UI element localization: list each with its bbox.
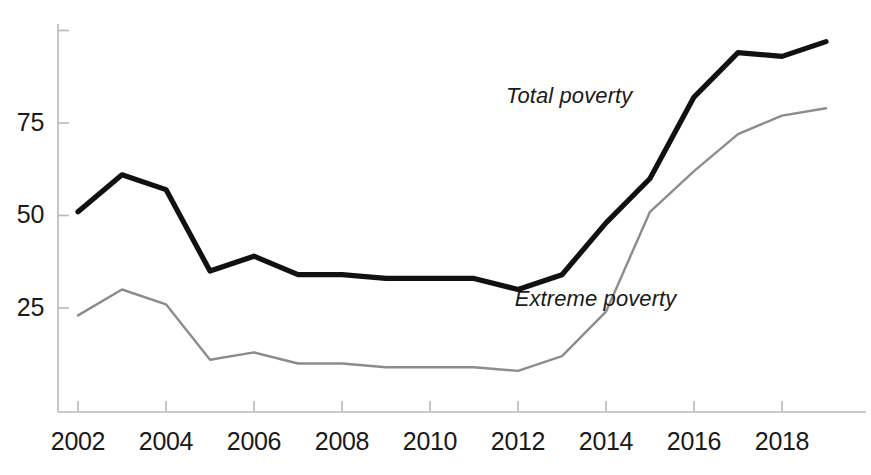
- line-chart-plot: 255075 200220042006200820102012201420162…: [0, 0, 871, 475]
- x-axis-tick-label: 2016: [667, 427, 721, 455]
- series-annotation-group: Total povertyExtreme poverty: [506, 83, 678, 312]
- x-axis-tick-label: 2012: [491, 427, 545, 455]
- x-axis-tick-label: 2010: [403, 427, 457, 455]
- chart-figure: 255075 200220042006200820102012201420162…: [0, 0, 871, 475]
- series-label-extreme-poverty: Extreme poverty: [515, 286, 679, 311]
- x-axis-tick-label: 2006: [227, 427, 281, 455]
- x-axis-tick-group: 200220042006200820102012201420162018: [51, 401, 809, 455]
- x-axis-tick-label: 2004: [139, 427, 194, 455]
- y-axis-tick-label: 75: [17, 108, 44, 136]
- x-axis-tick-label: 2018: [755, 427, 809, 455]
- x-axis-tick-label: 2008: [315, 427, 369, 455]
- series-group: [78, 42, 826, 371]
- y-axis-tick-group: 255075: [17, 31, 69, 321]
- x-axis-tick-label: 2014: [579, 427, 634, 455]
- y-axis-tick-label: 50: [17, 200, 44, 228]
- x-axis-tick-label: 2002: [51, 427, 105, 455]
- y-axis-tick-label: 25: [17, 293, 44, 321]
- series-label-total-poverty: Total poverty: [506, 83, 634, 108]
- series-line-total-poverty: [78, 42, 826, 290]
